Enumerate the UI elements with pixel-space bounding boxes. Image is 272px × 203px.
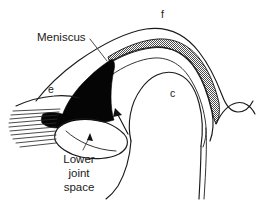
meniscus-leader-group (90, 39, 107, 61)
lower-joint-space-label-line3: space (64, 181, 95, 193)
fiber-line (16, 139, 56, 143)
label-f: f (161, 8, 164, 20)
figure-canvas: Meniscus f c e Lower joint space (0, 0, 272, 203)
fiber-line (13, 109, 60, 111)
condyle-head-outline (129, 72, 202, 146)
fiber-line (11, 131, 56, 135)
fiber-line (10, 127, 56, 131)
label-e: e (48, 83, 54, 95)
lower-joint-space-label-line1: Lower (63, 153, 94, 165)
posterior-sweep-curve (216, 103, 255, 124)
meniscus-solid-wedge (62, 59, 115, 123)
meniscus-label: Meniscus (37, 31, 86, 43)
fiber-line (20, 143, 56, 147)
anatomical-figure: Meniscus f c e Lower joint space (0, 0, 272, 203)
joint-space-arrowhead (113, 108, 122, 117)
condyle-head-group (129, 72, 202, 146)
label-c: c (170, 87, 175, 99)
condyle-neck-posterior (199, 146, 201, 199)
lower-joint-space-label-line2: joint (67, 167, 90, 179)
fiber-line (13, 135, 56, 139)
posterior-sweep-group (216, 103, 255, 124)
meniscus-leader-line (90, 39, 107, 61)
